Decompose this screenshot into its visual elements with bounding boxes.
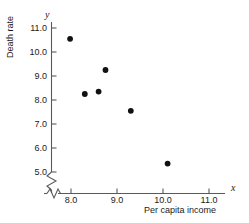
data-point [96, 89, 102, 95]
data-point [67, 36, 73, 42]
data-point [128, 108, 134, 114]
scatter-plot-figure: 11.010.09.08.07.06.05.0 y Death rate 8.0… [0, 0, 249, 223]
y-axis-variable-label: y [44, 9, 50, 20]
y-tick-marks [52, 28, 57, 172]
y-tick-labels: 11.010.09.08.07.06.05.0 [29, 23, 47, 177]
y-axis-title: Death rate [5, 16, 15, 58]
x-tick-marks [71, 189, 209, 194]
x-tick-label: 11.0 [201, 195, 218, 205]
y-tick-label: 8.0 [34, 95, 47, 105]
y-tick-label: 6.0 [34, 143, 47, 153]
x-axis-variable-label: x [230, 182, 236, 193]
data-point [165, 161, 171, 167]
y-tick-label: 10.0 [29, 47, 47, 57]
y-tick-label: 9.0 [34, 71, 47, 81]
data-point [82, 91, 88, 97]
y-axis-group: 11.010.09.08.07.06.05.0 y Death rate [5, 9, 57, 193]
data-point-series [67, 36, 170, 167]
x-tick-label: 9.0 [111, 195, 124, 205]
x-tick-label: 10.0 [154, 195, 172, 205]
x-axis-title: Per capita income [144, 205, 216, 215]
y-tick-label: 11.0 [30, 23, 47, 33]
y-axis-break-icon [47, 172, 56, 190]
y-tick-label: 7.0 [34, 119, 47, 129]
x-tick-label: 8.0 [65, 195, 78, 205]
x-tick-labels: 8.09.010.011.0 [65, 195, 218, 205]
x-axis-group: 8.09.010.011.0 x Per capita income [44, 182, 236, 215]
data-point [103, 67, 109, 73]
chart-canvas: 11.010.09.08.07.06.05.0 y Death rate 8.0… [0, 0, 249, 223]
y-tick-label: 5.0 [34, 167, 47, 177]
